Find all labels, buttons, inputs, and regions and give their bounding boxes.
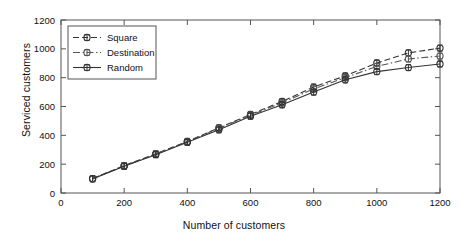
x-tick-label: 1200	[429, 197, 450, 208]
legend-label: Destination	[107, 47, 155, 58]
y-tick-label: 200	[39, 159, 55, 170]
legend-label: Random	[107, 62, 143, 73]
y-axis-title: Serviced customers	[20, 5, 32, 175]
chart-figure: 0200400600800100012000200400600800100012…	[0, 0, 468, 241]
y-tick-label: 0	[50, 188, 55, 199]
chart-plot-area: 0200400600800100012000200400600800100012…	[0, 0, 468, 241]
y-tick-label: 400	[39, 130, 55, 141]
x-tick-label: 400	[179, 197, 195, 208]
x-tick-label: 0	[58, 197, 63, 208]
x-tick-label: 600	[243, 197, 259, 208]
x-tick-label: 800	[306, 197, 322, 208]
y-tick-label: 1200	[34, 15, 55, 26]
x-tick-label: 200	[116, 197, 132, 208]
x-axis-title: Number of customers	[0, 219, 468, 231]
x-tick-label: 1000	[366, 197, 387, 208]
y-tick-label: 1000	[34, 43, 55, 54]
legend-label: Square	[107, 32, 138, 43]
chart-legend: SquareDestinationRandom	[68, 26, 156, 79]
y-tick-label: 800	[39, 72, 55, 83]
y-tick-label: 600	[39, 101, 55, 112]
